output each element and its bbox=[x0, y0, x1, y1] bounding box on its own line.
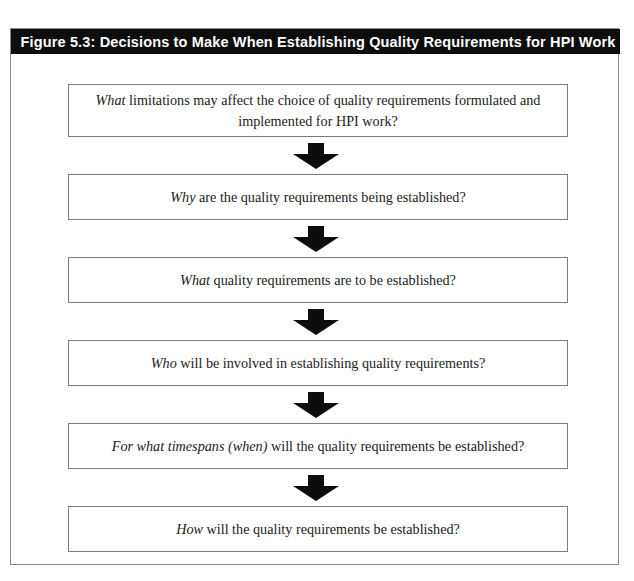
flow-node-5-rest: will the quality requirements be establi… bbox=[267, 438, 524, 454]
flow-node-1-rest: limitations may affect the choice of qua… bbox=[125, 92, 540, 128]
flow-node-2-emphasis: Why bbox=[170, 189, 195, 205]
flow-arrow-4-to-5-icon bbox=[293, 392, 339, 418]
flow-node-3-rest: quality requirements are to be establish… bbox=[210, 272, 456, 288]
flow-arrow-1-to-2-icon bbox=[293, 143, 339, 169]
flow-arrow-2-to-3-icon bbox=[293, 226, 339, 252]
flow-node-2-rest: are the quality requirements being estab… bbox=[195, 189, 465, 205]
flow-node-1: What limitations may affect the choice o… bbox=[68, 84, 568, 137]
flow-node-4: Who will be involved in establishing qua… bbox=[68, 340, 568, 386]
flow-node-3-text: What quality requirements are to be esta… bbox=[170, 270, 466, 290]
flow-node-3: What quality requirements are to be esta… bbox=[68, 257, 568, 303]
flowchart: What limitations may affect the choice o… bbox=[11, 54, 620, 565]
figure-frame: Figure 5.3: Decisions to Make When Estab… bbox=[10, 28, 619, 565]
flow-node-6: How will the quality requirements be est… bbox=[68, 506, 568, 552]
flow-node-5: For what timespans (when) will the quali… bbox=[68, 423, 568, 469]
flow-arrow-5-to-6-icon bbox=[293, 475, 339, 501]
flow-node-6-emphasis: How bbox=[176, 521, 203, 537]
flow-node-3-emphasis: What bbox=[180, 272, 210, 288]
flow-node-4-text: Who will be involved in establishing qua… bbox=[141, 353, 496, 373]
flow-node-4-rest: will be involved in establishing quality… bbox=[177, 355, 486, 371]
flow-node-4-emphasis: Who bbox=[151, 355, 177, 371]
figure-title: Figure 5.3: Decisions to Make When Estab… bbox=[11, 33, 615, 50]
flow-arrow-3-to-4-icon bbox=[293, 309, 339, 335]
flow-node-2-text: Why are the quality requirements being e… bbox=[160, 187, 475, 207]
flow-node-2: Why are the quality requirements being e… bbox=[68, 174, 568, 220]
flow-node-5-emphasis: For what timespans (when) bbox=[112, 438, 268, 454]
flow-node-5-text: For what timespans (when) will the quali… bbox=[102, 436, 535, 456]
flow-node-6-text: How will the quality requirements be est… bbox=[166, 519, 470, 539]
flow-node-1-text: What limitations may affect the choice o… bbox=[69, 90, 567, 130]
flow-node-1-emphasis: What bbox=[96, 92, 126, 108]
figure-title-bar: Figure 5.3: Decisions to Make When Estab… bbox=[11, 29, 620, 54]
flow-node-6-rest: will the quality requirements be establi… bbox=[203, 521, 460, 537]
